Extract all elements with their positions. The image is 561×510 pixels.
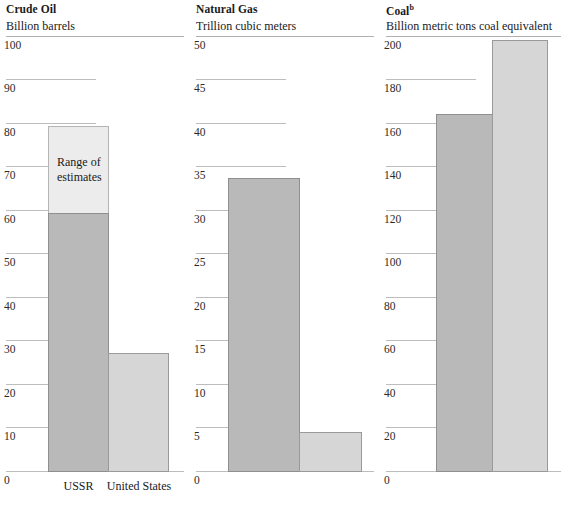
tick-label-crude-0: 0 — [4, 474, 10, 486]
tick-label-gas-45: 45 — [194, 82, 206, 94]
panel-crude-oil-units: Billion barrels — [6, 19, 75, 34]
panel-crude-oil-title: Crude Oil — [6, 3, 56, 15]
tick-label-crude-30: 30 — [4, 343, 16, 355]
category-label-united-states: United States — [103, 479, 175, 494]
panel-coal-title: Coalb — [386, 3, 414, 17]
bar-ussr-natural-gas — [228, 178, 300, 472]
category-label-ussr: USSR — [48, 479, 109, 494]
gridline-80 — [6, 123, 96, 124]
panel-coal-title-footnote-marker: b — [409, 3, 414, 12]
tick-label-crude-100: 100 — [4, 39, 21, 51]
gridline-90 — [6, 79, 96, 80]
range-of-estimates-label-line2: estimates — [57, 170, 102, 184]
gridline-45 — [196, 79, 286, 80]
tick-label-coal-80: 80 — [384, 300, 396, 312]
tick-label-crude-80: 80 — [4, 126, 16, 138]
bar-united-states-crude-oil — [108, 353, 169, 472]
tick-label-coal-180: 180 — [384, 82, 401, 94]
panel-crude-oil: Crude Oil Billion barrels 100 90 80 70 6… — [0, 0, 190, 510]
tick-label-crude-60: 60 — [4, 213, 16, 225]
tick-label-crude-70: 70 — [4, 169, 16, 181]
range-of-estimates-label-line1: Range of — [57, 155, 101, 169]
tick-label-coal-160: 160 — [384, 126, 401, 138]
tick-label-coal-120: 120 — [384, 213, 401, 225]
tick-label-coal-40: 40 — [384, 387, 396, 399]
tick-label-gas-30: 30 — [194, 213, 206, 225]
tick-label-gas-35: 35 — [194, 169, 206, 181]
tick-label-crude-90: 90 — [4, 82, 16, 94]
tick-label-gas-40: 40 — [194, 126, 206, 138]
three-panel-bar-chart-figure: Crude Oil Billion barrels 100 90 80 70 6… — [0, 0, 561, 510]
gridline-40 — [196, 123, 286, 124]
panel-coal-units: Billion metric tons coal equivalent — [386, 19, 552, 34]
tick-label-crude-20: 20 — [4, 387, 16, 399]
tick-label-gas-25: 25 — [194, 256, 206, 268]
tick-label-crude-10: 10 — [4, 430, 16, 442]
gridline-180 — [386, 79, 476, 80]
tick-label-coal-140: 140 — [384, 169, 401, 181]
tick-label-gas-20: 20 — [194, 300, 206, 312]
tick-label-gas-50: 50 — [194, 39, 206, 51]
panel-natural-gas: Natural Gas Trillion cubic meters 50 45 … — [190, 0, 380, 510]
tick-label-coal-100: 100 — [384, 256, 401, 268]
tick-label-gas-10: 10 — [194, 387, 206, 399]
tick-label-gas-0: 0 — [194, 474, 200, 486]
tick-label-coal-20: 20 — [384, 430, 396, 442]
tick-label-crude-40: 40 — [4, 300, 16, 312]
tick-label-gas-5: 5 — [194, 430, 200, 442]
panel-coal: Coalb Billion metric tons coal equivalen… — [380, 0, 561, 510]
panel-natural-gas-units: Trillion cubic meters — [196, 19, 296, 34]
tick-label-coal-200: 200 — [384, 39, 401, 51]
gridline-35 — [196, 166, 286, 167]
bar-united-states-natural-gas — [299, 432, 362, 472]
range-of-estimates-label: Range of estimates — [57, 155, 102, 185]
gridline-100 — [6, 36, 184, 37]
tick-label-gas-15: 15 — [194, 343, 206, 355]
bar-ussr-coal — [436, 114, 493, 472]
bar-united-states-coal — [492, 40, 548, 472]
tick-label-coal-0: 0 — [384, 474, 390, 486]
panel-coal-title-text: Coal — [386, 5, 409, 17]
gridline-200 — [386, 36, 561, 37]
bar-ussr-crude-oil — [48, 213, 109, 472]
gridline-50 — [196, 36, 374, 37]
tick-label-crude-50: 50 — [4, 256, 16, 268]
panel-natural-gas-title: Natural Gas — [196, 3, 257, 15]
tick-label-coal-60: 60 — [384, 343, 396, 355]
